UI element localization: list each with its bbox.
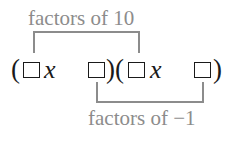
open-paren-1: ( xyxy=(11,56,20,83)
blank-box-1 xyxy=(23,62,40,78)
variable-x-2: x xyxy=(150,57,162,83)
factors-of-10-label: factors of 10 xyxy=(28,8,134,29)
factors-of-neg1-label: factors of −1 xyxy=(88,108,195,129)
bottom-bracket-left-leg xyxy=(96,82,98,103)
top-bracket-right-leg xyxy=(138,32,140,53)
close-paren-2: ) xyxy=(213,56,222,83)
top-bracket-left-leg xyxy=(33,32,35,53)
blank-box-4 xyxy=(194,62,211,78)
blank-box-2 xyxy=(88,62,105,78)
blank-box-3 xyxy=(128,62,145,78)
top-bracket-bar xyxy=(33,31,140,33)
bottom-bracket-bar xyxy=(96,101,204,103)
close-open-paren: )( xyxy=(106,56,124,83)
variable-x-1: x xyxy=(44,57,56,83)
bottom-bracket-right-leg xyxy=(202,82,204,103)
